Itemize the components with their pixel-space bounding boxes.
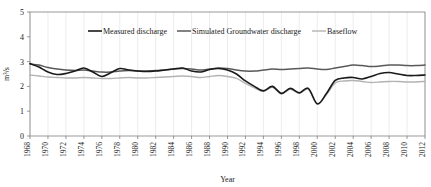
y-tick-label: 1	[20, 107, 24, 116]
axis-titles: Yearm³/s	[2, 67, 235, 184]
x-tick-label: 1978	[113, 142, 122, 157]
x-tick-label: 1994	[256, 142, 265, 157]
x-tick-label: 1976	[95, 142, 104, 157]
ytick-labels: 012345	[20, 8, 24, 141]
x-tick-label: 2008	[382, 142, 391, 157]
x-tick-label: 1984	[167, 142, 176, 157]
chart-container: 012345 196819701972197419761978198019821…	[0, 0, 431, 187]
x-tick-label: 1990	[221, 142, 230, 157]
line-chart: 012345 196819701972197419761978198019821…	[0, 0, 431, 187]
x-tick-label: 1968	[23, 142, 32, 157]
x-tick-label: 1988	[203, 142, 212, 157]
x-tick-label: 2004	[346, 142, 355, 157]
x-tick-label: 2000	[310, 142, 319, 157]
y-tick-label: 2	[20, 82, 24, 91]
x-tick-label: 1982	[149, 142, 158, 157]
legend-label: Measured discharge	[103, 27, 168, 36]
x-tick-label: 1980	[131, 142, 140, 157]
y-tick-label: 0	[20, 132, 24, 141]
legend: Measured dischargeSimulated Groundwater …	[88, 27, 357, 36]
x-tick-label: 1998	[292, 142, 301, 157]
x-tick-label: 1992	[238, 142, 247, 157]
legend-label: Baseflow	[327, 27, 357, 36]
legend-label: Simulated Groundwater discharge	[192, 27, 302, 36]
x-tick-label: 2010	[400, 142, 409, 157]
x-tick-label: 1986	[185, 142, 194, 157]
x-tick-label: 1996	[274, 142, 283, 157]
y-tick-label: 5	[20, 8, 24, 17]
y-axis-title: m³/s	[2, 67, 11, 81]
y-tick-label: 4	[20, 33, 24, 42]
xtick-labels: 1968197019721974197619781980198219841986…	[23, 142, 427, 157]
x-tick-label: 1972	[59, 142, 68, 157]
x-tick-label: 2012	[418, 142, 427, 157]
x-tick-label: 1970	[41, 142, 50, 157]
x-tick-label: 1974	[77, 142, 86, 157]
x-tick-label: 2002	[328, 142, 337, 157]
x-axis-title: Year	[220, 175, 235, 184]
x-tick-label: 2006	[364, 142, 373, 157]
y-tick-label: 3	[20, 58, 24, 67]
